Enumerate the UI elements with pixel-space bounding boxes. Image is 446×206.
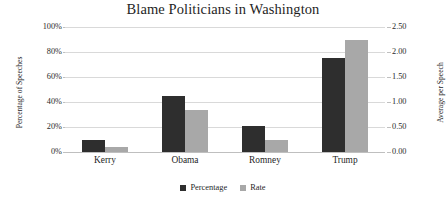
axis-tick-label: 0.00 xyxy=(392,148,424,156)
x-axis-line xyxy=(65,152,385,153)
axis-tick-label: 0.50 xyxy=(392,123,424,131)
plot-area xyxy=(65,27,385,152)
axis-tick-label: 2.00 xyxy=(392,48,424,56)
y-axis-right-ticks: 0.000.501.001.502.002.50 xyxy=(392,27,428,152)
axis-tick-mark xyxy=(387,77,391,78)
y-axis-right-title: Average per Speech xyxy=(436,38,445,148)
bar-percentage[interactable] xyxy=(82,140,105,153)
bar-rate[interactable] xyxy=(345,40,368,153)
chart-container: Blame Politicians in Washington Percenta… xyxy=(0,0,446,206)
axis-tick-label: 1.50 xyxy=(392,73,424,81)
x-axis-label-obama: Obama xyxy=(145,155,225,165)
axis-tick-label: 40% xyxy=(30,98,62,106)
axis-tick-label: 100% xyxy=(30,23,62,31)
x-axis-label-romney: Romney xyxy=(225,155,305,165)
bar-group xyxy=(65,27,145,152)
bar-percentage[interactable] xyxy=(322,58,345,152)
legend-label: Rate xyxy=(250,183,265,192)
y-axis-left-ticks: 0%20%40%60%80%100% xyxy=(26,27,62,152)
axis-tick-label: 20% xyxy=(30,123,62,131)
axis-tick-mark xyxy=(387,27,391,28)
bar-rate[interactable] xyxy=(265,140,288,153)
bar-group xyxy=(225,27,305,152)
axis-tick-mark xyxy=(387,102,391,103)
x-axis-label-kerry: Kerry xyxy=(65,155,145,165)
axis-tick-label: 80% xyxy=(30,48,62,56)
y-axis-left-title: Percentage of Speeches xyxy=(15,38,24,148)
bar-percentage[interactable] xyxy=(242,126,265,152)
axis-tick-label: 0% xyxy=(30,148,62,156)
bar-percentage[interactable] xyxy=(162,96,185,152)
axis-tick-label: 60% xyxy=(30,73,62,81)
bar-rate[interactable] xyxy=(185,110,208,153)
legend-swatch-icon xyxy=(240,185,246,191)
axis-tick-mark xyxy=(387,152,391,153)
x-axis-label-trump: Trump xyxy=(305,155,385,165)
legend-label: Percentage xyxy=(190,183,227,192)
x-axis-labels: KerryObamaRomneyTrump xyxy=(65,155,385,171)
axis-tick-label: 2.50 xyxy=(392,23,424,31)
legend-item-percentage[interactable]: Percentage xyxy=(180,183,227,192)
chart-legend: PercentageRate xyxy=(0,183,446,192)
legend-swatch-icon xyxy=(180,185,186,191)
bar-group xyxy=(145,27,225,152)
bar-rate[interactable] xyxy=(105,147,128,152)
axis-tick-label: 1.00 xyxy=(392,98,424,106)
axis-tick-mark xyxy=(387,127,391,128)
chart-title: Blame Politicians in Washington xyxy=(0,1,446,18)
bar-group xyxy=(305,27,385,152)
legend-item-rate[interactable]: Rate xyxy=(240,183,265,192)
axis-tick-mark xyxy=(387,52,391,53)
